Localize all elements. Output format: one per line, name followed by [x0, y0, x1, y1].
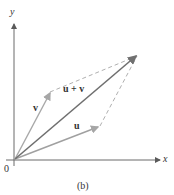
- origin-label: 0: [4, 164, 9, 174]
- vector-v-label: v: [33, 103, 38, 113]
- vector-u-plus-v-label: u + v: [63, 84, 84, 94]
- vector-u: [15, 127, 98, 159]
- y-axis-label: y: [10, 7, 14, 17]
- vector-u-label: u: [74, 121, 80, 131]
- x-axis-label: x: [163, 154, 167, 164]
- figure-caption: (b): [77, 181, 89, 191]
- vector-addition-diagram: [0, 0, 174, 195]
- dashed-edge-u-to-sum: [100, 56, 137, 126]
